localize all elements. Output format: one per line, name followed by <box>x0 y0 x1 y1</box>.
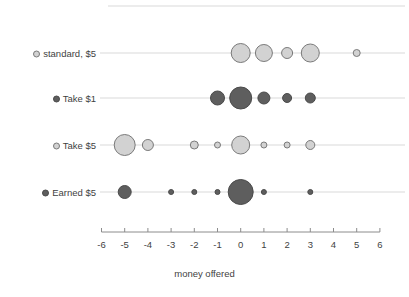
bubble-point <box>192 190 197 195</box>
category-marker-icon <box>42 190 49 197</box>
x-tick-label-3: -3 <box>167 239 175 250</box>
category-label-text: Take $1 <box>63 93 96 104</box>
x-tick-label-4: -2 <box>190 239 198 250</box>
bubble-point <box>114 135 135 156</box>
category-label-text: Earned $5 <box>52 187 96 198</box>
category-marker-icon <box>53 143 60 150</box>
bubble-point <box>301 44 319 62</box>
bubble-point <box>211 91 225 105</box>
bubble-point <box>282 48 293 59</box>
bubble-point <box>308 190 313 195</box>
category-marker-icon <box>53 96 60 103</box>
x-axis <box>102 228 380 232</box>
bubble-point <box>215 142 221 148</box>
bubble-point <box>228 180 253 205</box>
x-tick-label-10: 4 <box>331 239 336 250</box>
x-tick-label-2: -4 <box>144 239 152 250</box>
bubble-point <box>232 136 250 154</box>
x-tick-label-8: 2 <box>284 239 289 250</box>
category-marker-icon <box>33 51 40 58</box>
x-tick-label-12: 6 <box>377 239 382 250</box>
category-label-0: standard, $5 <box>33 48 96 59</box>
gridlines <box>100 6 405 192</box>
x-tick-label-6: 0 <box>238 239 243 250</box>
bubble-chart: standard, $5Take $1Take $5Earned $5 -6-5… <box>0 0 409 297</box>
bubble-point <box>284 142 290 148</box>
x-tick-label-0: -6 <box>97 239 105 250</box>
bubble-point <box>230 87 252 109</box>
bubble-point <box>261 142 267 148</box>
x-tick-label-7: 1 <box>261 239 266 250</box>
bubble-point <box>261 190 266 195</box>
bubble-point <box>258 92 270 104</box>
bubble-point <box>118 186 131 199</box>
x-tick-label-11: 5 <box>354 239 359 250</box>
x-tick-label-9: 3 <box>308 239 313 250</box>
bubble-point <box>353 50 360 57</box>
x-tick-label-5: -1 <box>213 239 221 250</box>
bubble-point <box>215 190 220 195</box>
bubble-point <box>255 45 272 62</box>
category-label-1: Take $1 <box>53 93 96 104</box>
bubble-point <box>231 44 250 63</box>
bubble-point <box>306 141 315 150</box>
category-label-text: Take $5 <box>63 140 96 151</box>
bubble-point <box>190 141 198 149</box>
bubble-series <box>114 44 360 205</box>
x-axis-title: money offered <box>0 268 409 279</box>
category-label-3: Earned $5 <box>42 187 96 198</box>
category-label-text: standard, $5 <box>43 48 96 59</box>
x-tick-label-1: -5 <box>120 239 128 250</box>
bubble-point <box>169 190 174 195</box>
bubble-point <box>305 93 315 103</box>
category-label-2: Take $5 <box>53 140 96 151</box>
bubble-point <box>142 140 153 151</box>
bubble-point <box>283 94 292 103</box>
